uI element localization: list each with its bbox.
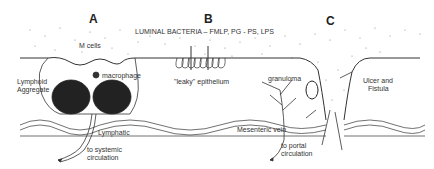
ulcer-label: Ulcer and — [363, 77, 393, 85]
systemic-circulation-label: circulation — [87, 154, 119, 162]
portal-label: to portal — [281, 142, 306, 150]
panel-label-b: B — [204, 12, 213, 26]
macrophage-label: macrophage — [102, 72, 141, 80]
mesenteric-vein-label: Mesenteric vein — [237, 126, 286, 134]
leaky-epithelium-label: "leaky" epithelium — [174, 78, 229, 86]
gut-bacteria-diagram: A B C LUMINAL BACTERIA – FMLP, PG - PS, … — [0, 0, 434, 169]
systemic-label: to systemic — [87, 146, 122, 154]
m-cells-label: M cells — [79, 42, 101, 50]
aggregate-label: Aggregate — [17, 86, 49, 94]
luminal-bacteria-label: LUMINAL BACTERIA – FMLP, PG - PS, LPS — [135, 28, 274, 36]
lymphatic-label: Lymphatic — [98, 129, 130, 137]
panel-label-a: A — [89, 12, 98, 26]
granuloma-shape — [306, 81, 318, 99]
panel-label-c: C — [326, 14, 335, 28]
granuloma-label: granuloma — [268, 75, 301, 83]
portal-circulation-label: circulation — [281, 150, 313, 158]
fistula-label: Fistula — [368, 85, 389, 93]
lymphoid-label: Lymphoid — [17, 78, 47, 86]
lymphoid-aggregate — [39, 58, 138, 114]
submucosa-layers — [20, 120, 425, 136]
